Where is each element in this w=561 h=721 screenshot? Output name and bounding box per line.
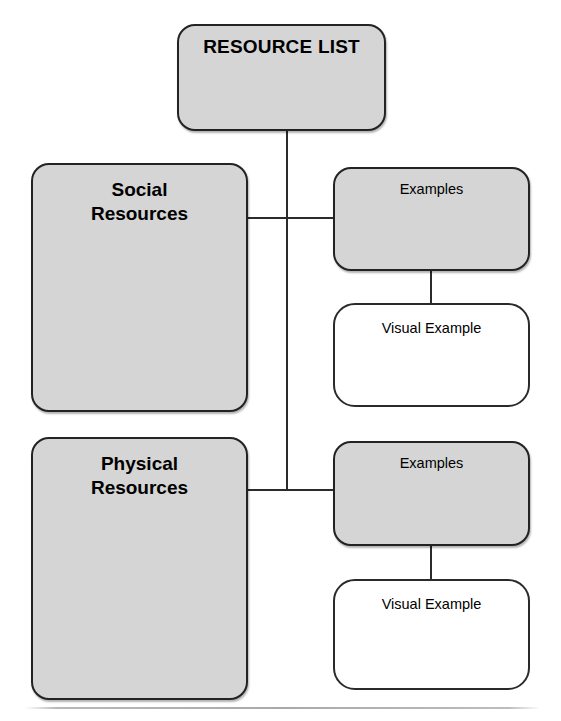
- connector-examples-to-visual-2: [430, 545, 432, 580]
- node-physical-examples-label: Examples: [400, 443, 464, 473]
- footer-divider: [25, 707, 540, 709]
- node-social-visual-example-label: Visual Example: [382, 305, 482, 338]
- node-social-resources-label: Social Resources: [91, 165, 188, 227]
- node-social-examples[interactable]: Examples: [333, 167, 530, 271]
- node-social-visual-example[interactable]: Visual Example: [333, 303, 530, 407]
- connector-examples-to-visual-1: [430, 269, 432, 305]
- node-physical-resources[interactable]: Physical Resources: [31, 437, 248, 700]
- node-resource-list[interactable]: RESOURCE LIST: [177, 24, 386, 131]
- diagram-canvas: RESOURCE LIST Social Resources Examples …: [0, 0, 561, 721]
- connector-trunk-vertical: [286, 129, 288, 489]
- node-resource-list-label: RESOURCE LIST: [203, 26, 360, 59]
- connector-branch-physical-right: [286, 489, 335, 491]
- node-physical-visual-example[interactable]: Visual Example: [333, 579, 530, 690]
- connector-branch-social-right: [286, 217, 335, 219]
- node-social-resources[interactable]: Social Resources: [31, 163, 248, 412]
- node-physical-visual-example-label: Visual Example: [382, 581, 482, 614]
- node-physical-resources-label: Physical Resources: [91, 439, 188, 501]
- node-social-examples-label: Examples: [400, 169, 464, 199]
- connector-branch-social-left: [246, 217, 288, 219]
- node-physical-examples[interactable]: Examples: [333, 441, 530, 546]
- connector-branch-physical-left: [246, 489, 288, 491]
